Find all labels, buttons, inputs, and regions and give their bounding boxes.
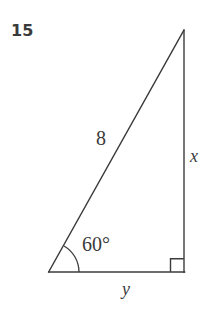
- right-angle-marker-icon: [171, 259, 184, 272]
- vertical-side-label: x: [190, 147, 198, 165]
- geometry-figure: 15 8 x y 60°: [0, 0, 213, 309]
- triangle-side-hypotenuse: [49, 30, 184, 272]
- hypotenuse-length-label: 8: [96, 128, 106, 148]
- horizontal-side-label: y: [122, 280, 130, 298]
- angle-arc-icon: [64, 246, 79, 272]
- problem-number: 15: [11, 23, 34, 39]
- angle-measure-label: 60°: [82, 234, 110, 254]
- triangle-drawing: [0, 0, 213, 309]
